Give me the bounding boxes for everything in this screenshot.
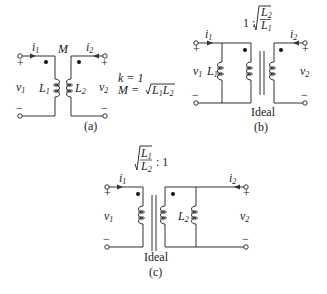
- inductor-l1-coil: [54, 79, 60, 97]
- label-i2: i2: [86, 40, 93, 55]
- plus-left: +: [104, 186, 111, 200]
- inductor-l2-coil: [67, 79, 73, 97]
- turns-ratio-label: 1 : L2 L1: [243, 5, 272, 33]
- polarity-dot-left: [44, 60, 48, 64]
- ideal-secondary-coil: [161, 206, 167, 224]
- label-i1: i1: [32, 40, 39, 55]
- wire-b-left-bottom: [198, 80, 251, 103]
- iron-core: [260, 51, 264, 95]
- wire-c-right-bottom: [165, 224, 244, 247]
- shunt-inductor-l1: [218, 62, 224, 80]
- turns-ratio-label: L1 L2 : 1: [135, 146, 168, 174]
- caption-c: (c): [149, 265, 162, 279]
- minus-right: −: [242, 232, 249, 246]
- polarity-dot-right: [77, 60, 81, 64]
- minus-left: −: [16, 101, 23, 115]
- polarity-dot-primary: [136, 192, 140, 196]
- minus-right: −: [301, 88, 308, 102]
- svg-text:M =: M =: [117, 83, 139, 97]
- iron-core: [152, 195, 156, 251]
- caption-a: (a): [84, 119, 97, 133]
- label-l1: L1: [38, 81, 50, 96]
- wire-a-left-bottom: [22, 97, 55, 116]
- label-i2: i2: [229, 171, 236, 186]
- svg-text:L1: L1: [260, 18, 272, 33]
- ideal-secondary-coil: [270, 62, 276, 80]
- polarity-dot-secondary: [279, 48, 283, 52]
- transformer-equivalent-circuits: i1 M i2 + + − − v1 v2 L1 L2 k = 1 M = L1…: [0, 0, 327, 294]
- wire-a-left-top: [22, 56, 55, 79]
- label-mutual-m: M: [57, 42, 69, 56]
- label-l2: L2: [177, 209, 189, 224]
- wire-b-left-top: [198, 43, 251, 62]
- polarity-dot-secondary: [171, 192, 175, 196]
- label-l2: L2: [74, 81, 86, 96]
- label-v2: v2: [300, 64, 309, 79]
- diagram-b-ideal-with-shunt-l1: 1 : L2 L1 i1 i2 + + − − v1 v2 L1 Ideal (…: [192, 5, 309, 134]
- wire-b-right-top: [274, 43, 303, 62]
- label-l1: L1: [206, 64, 218, 79]
- diagram-a-coupled-inductors: i1 M i2 + + − − v1 v2 L1 L2 k = 1 M = L1…: [16, 40, 175, 133]
- svg-text:1 :: 1 :: [243, 16, 255, 30]
- caption-b: (b): [254, 120, 268, 134]
- equation-m: M = L1L2: [117, 83, 175, 98]
- wire-c-right-top: [165, 187, 244, 206]
- wire-a-right-top: [71, 56, 103, 79]
- plus-right: +: [243, 186, 250, 200]
- label-i1: i1: [205, 27, 212, 42]
- label-v1: v1: [104, 209, 113, 224]
- label-v1: v1: [193, 64, 202, 79]
- ideal-label: Ideal: [144, 250, 169, 264]
- label-i1: i1: [119, 171, 126, 186]
- plus-right: +: [302, 42, 309, 56]
- svg-text:L1L2: L1L2: [151, 83, 173, 98]
- plus-left: +: [17, 56, 24, 70]
- ideal-primary-coil: [247, 62, 253, 80]
- label-i2: i2: [290, 27, 297, 42]
- label-v2: v2: [240, 209, 249, 224]
- shunt-inductor-l2: [192, 206, 198, 224]
- ideal-primary-coil: [139, 206, 145, 224]
- minus-left: −: [103, 232, 110, 246]
- wire-c-left-top: [109, 187, 143, 206]
- polarity-dot-primary: [243, 48, 247, 52]
- current-arrow-i2: [93, 54, 99, 59]
- label-v1: v1: [16, 80, 25, 95]
- plus-right: +: [101, 56, 108, 70]
- diagram-c-ideal-with-shunt-l2: L1 L2 : 1 i1 i2 + + − − v1 v2 L2 Ideal (…: [103, 146, 250, 279]
- svg-text:L2: L2: [140, 159, 152, 174]
- wire-a-right-bottom: [71, 97, 103, 116]
- plus-left: +: [193, 42, 200, 56]
- svg-text:: 1: : 1: [156, 155, 168, 169]
- minus-left: −: [192, 88, 199, 102]
- ideal-label: Ideal: [251, 105, 276, 119]
- wire-c-left-bottom: [109, 224, 143, 247]
- minus-right: −: [101, 101, 108, 115]
- wire-b-right-bottom: [274, 80, 303, 103]
- label-v2: v2: [99, 80, 108, 95]
